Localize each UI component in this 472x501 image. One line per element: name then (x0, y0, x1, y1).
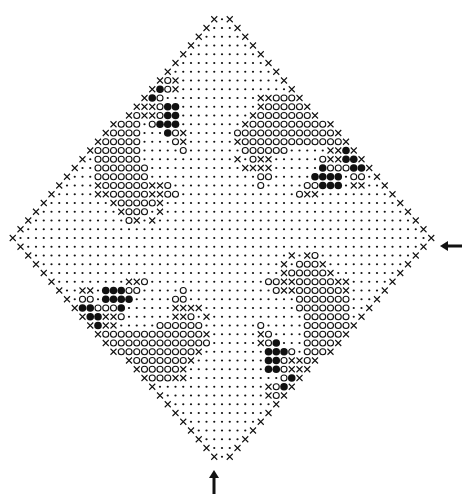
dot-stitch (112, 228, 114, 230)
dot-stitch (267, 272, 269, 274)
left-arrow-head-icon (440, 241, 448, 251)
open-stitch (134, 288, 140, 294)
dot-stitch (205, 421, 207, 423)
dot-stitch (221, 272, 223, 274)
dot-stitch (314, 149, 316, 151)
dot-stitch (368, 281, 370, 283)
dot-stitch (120, 228, 122, 230)
cross-stitch (250, 165, 256, 171)
open-stitch (134, 209, 140, 215)
cross-stitch (180, 139, 186, 145)
dot-stitch (244, 97, 246, 99)
dot-stitch (283, 176, 285, 178)
dot-stitch (198, 158, 200, 160)
dot-stitch (353, 298, 355, 300)
dot-stitch (229, 141, 231, 143)
open-stitch (173, 323, 179, 329)
filled-stitch (117, 295, 125, 303)
dot-stitch (252, 246, 254, 248)
dot-stitch (221, 71, 223, 73)
dot-stitch (244, 412, 246, 414)
open-stitch (165, 323, 171, 329)
open-stitch (157, 375, 163, 381)
open-stitch (328, 279, 334, 285)
dot-stitch (43, 246, 45, 248)
open-stitch (297, 139, 303, 145)
dot-stitch (229, 412, 231, 414)
dot-stitch (244, 429, 246, 431)
open-stitch (335, 165, 341, 171)
dot-stitch (236, 246, 238, 248)
open-stitch (118, 349, 124, 355)
open-stitch (149, 375, 155, 381)
dot-stitch (50, 228, 52, 230)
dot-stitch (128, 263, 130, 265)
dot-stitch (112, 263, 114, 265)
cross-stitch (266, 410, 272, 416)
cross-stitch (80, 156, 86, 162)
open-stitch (126, 156, 132, 162)
dot-stitch (236, 333, 238, 335)
dot-stitch (205, 167, 207, 169)
open-stitch (250, 148, 256, 154)
dot-stitch (81, 176, 83, 178)
dot-stitch (376, 202, 378, 204)
dot-stitch (120, 324, 122, 326)
dot-stitch (291, 184, 293, 186)
open-stitch (266, 130, 272, 136)
dot-stitch (205, 429, 207, 431)
dot-stitch (260, 193, 262, 195)
cross-stitch (103, 314, 109, 320)
dot-stitch (198, 412, 200, 414)
dot-stitch (260, 246, 262, 248)
cross-stitch (266, 384, 272, 390)
open-stitch (258, 323, 264, 329)
dot-stitch (360, 298, 362, 300)
cross-stitch (111, 349, 117, 355)
dot-stitch (198, 298, 200, 300)
dot-stitch (322, 219, 324, 221)
open-stitch (281, 130, 287, 136)
dot-stitch (105, 246, 107, 248)
open-stitch (95, 156, 101, 162)
dot-stitch (143, 298, 145, 300)
dot-stitch (81, 272, 83, 274)
dot-stitch (43, 219, 45, 221)
dot-stitch (174, 176, 176, 178)
dot-stitch (252, 386, 254, 388)
dot-stitch (244, 71, 246, 73)
open-stitch (281, 104, 287, 110)
cross-stitch (173, 410, 179, 416)
dot-stitch (167, 289, 169, 291)
dot-stitch (267, 71, 269, 73)
dot-stitch (136, 237, 138, 239)
dot-stitch (159, 386, 161, 388)
cross-stitch (95, 191, 101, 197)
dot-stitch (252, 289, 254, 291)
dot-stitch (298, 316, 300, 318)
cross-stitch (111, 200, 117, 206)
filled-stitch (156, 120, 164, 128)
dot-stitch (213, 307, 215, 309)
open-stitch (118, 191, 124, 197)
dot-stitch (97, 254, 99, 256)
dot-stitch (376, 272, 378, 274)
open-stitch (142, 358, 148, 364)
open-stitch (312, 270, 318, 276)
open-stitch (126, 209, 132, 215)
dot-stitch (213, 272, 215, 274)
dot-stitch (221, 53, 223, 55)
open-stitch (359, 174, 365, 180)
dot-stitch (128, 254, 130, 256)
dot-stitch (275, 211, 277, 213)
dot-stitch (182, 71, 184, 73)
open-stitch (196, 340, 202, 346)
dot-stitch (368, 219, 370, 221)
dot-stitch (298, 184, 300, 186)
dot-stitch (35, 237, 37, 239)
cross-stitch (242, 34, 248, 40)
open-stitch (126, 349, 132, 355)
cross-stitch (242, 436, 248, 442)
dot-stitch (244, 333, 246, 335)
dot-stitch (368, 202, 370, 204)
